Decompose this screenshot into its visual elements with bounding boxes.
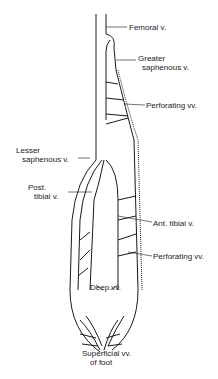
label-lesser-saphenous-2: saphenous v. [22, 155, 69, 164]
ant-tibial-vein [106, 160, 118, 290]
femoral-vein [96, 14, 106, 120]
label-lesser-saphenous-1: Lesser [16, 146, 40, 155]
foot-veins [80, 316, 124, 350]
perforating-lower [118, 196, 136, 256]
label-perforating-lower: Perforating vv. [153, 252, 204, 261]
label-greater-saphenous-1: Greater [138, 54, 165, 63]
label-post-tibial-2: tibial v. [34, 192, 58, 201]
label-perforating-upper: Perforating vv. [146, 101, 197, 110]
greater-saphenous-vein [106, 34, 138, 350]
label-superficial-foot-2: of foot [90, 358, 112, 367]
post-tibial-vein [90, 160, 104, 290]
label-superficial-foot-1: Superficial vv. [82, 349, 131, 358]
label-deep-veins: Deep vv. [90, 283, 121, 292]
label-femoral-vein: Femoral v. [129, 23, 166, 32]
label-post-tibial-1: Post. [28, 183, 46, 192]
label-ant-tibial-vein: Ant. tibial v. [153, 219, 194, 228]
label-greater-saphenous-2: saphenous v. [142, 63, 189, 72]
